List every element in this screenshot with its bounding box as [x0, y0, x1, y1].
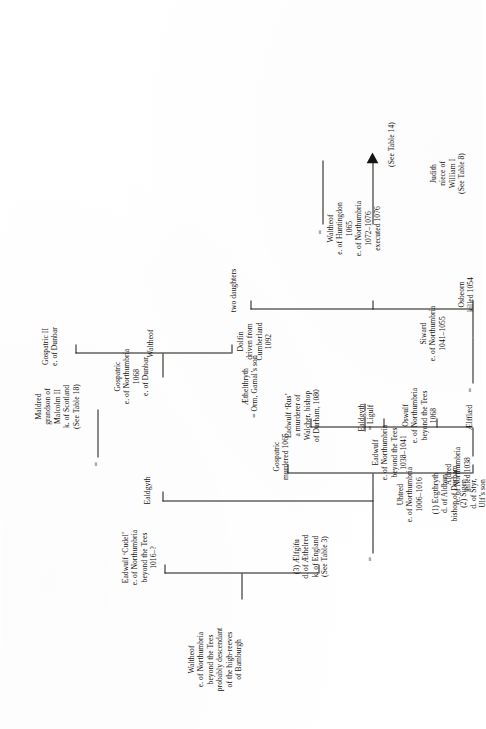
- node-two-daughters: two daughters: [228, 251, 237, 329]
- node-eadwulf-rus: Eadwulf ‘Rus’ a murderer of Walcher, bis…: [283, 353, 321, 477]
- node-waltheof-i-line2: beyond the Tees: [205, 599, 214, 719]
- node-gospatric-line1: e. of Northumbria: [121, 316, 130, 436]
- line-marriage-judith-waltheof: [322, 160, 323, 224]
- marriage-symbol-siward: =: [466, 387, 474, 392]
- node-dolfin-line3: 1092: [263, 291, 272, 391]
- marriage-symbol-maldred: =: [92, 461, 100, 466]
- node-aethelthryth-spouse: = Orm, Gamal’s son: [249, 317, 258, 455]
- node-waltheof-i-line1: e. of Northumbria: [195, 599, 204, 719]
- node-judith-line1: niece of: [437, 125, 446, 221]
- node-aelfgifu-line2: k. of England: [310, 501, 319, 611]
- line-waltheof-i-descent: [241, 573, 242, 599]
- node-gospatric: Gospatric e. of Northumbria 1068 e. of D…: [112, 316, 150, 436]
- node-aethelthryth: Æthelthryth = Orm, Gamal’s son: [240, 317, 259, 455]
- node-siward-name: Siward: [418, 271, 427, 395]
- node-waltheof-i-line4: of the high-reeves: [224, 599, 233, 719]
- node-gospatric-ii: Gospatric II e. of Dunbar: [40, 296, 59, 396]
- node-ealdgyth-ligulf-spouse: = Ligulf: [365, 386, 374, 448]
- node-eadwulf-rus-line2: Walcher, bishop: [302, 353, 311, 477]
- node-waltheof-i-name: Waltheof: [186, 599, 195, 719]
- node-eadwulf-cudel-name: Eadwulf ‘Cudel’: [120, 497, 129, 617]
- node-judith-line3: (See Table 8): [456, 125, 465, 221]
- node-aldred-name: Aldred: [443, 412, 452, 536]
- line-to-eadwulf-cudel: [164, 564, 165, 573]
- node-waltheof-huntingdon-line2: 1065: [344, 168, 353, 288]
- node-aethelthryth-name: Æthelthryth: [240, 317, 249, 455]
- node-waltheof-dunbar: Waltheof: [145, 315, 154, 371]
- line-to-two-daughters: [250, 300, 251, 309]
- node-osbeorn-line1: killed 1054: [465, 255, 474, 333]
- node-two-daughters-label: two daughters: [228, 251, 237, 329]
- node-judith-name: Judith: [428, 125, 437, 221]
- node-ealdgyth-maldred-name: Ealdgyth: [142, 462, 151, 518]
- line-aldred-children-bar: [310, 426, 472, 427]
- node-gospatric-name: Gospatric: [112, 316, 121, 436]
- node-eadwulf-cudel: Eadwulf ‘Cudel’ e. of Northumbria beyond…: [120, 497, 158, 617]
- node-maldred-line3: k. of Scotland: [61, 351, 70, 461]
- line-see-table-14-stem: [372, 160, 373, 224]
- node-osbeorn: Osbeorn killed 1054: [456, 255, 475, 333]
- node-eadwulf-rus-line1: a murderer of: [292, 353, 301, 477]
- node-aelfgifu-line3: (See Table 3): [319, 501, 328, 611]
- node-oswulf-line1: e. of Northumbria: [409, 353, 418, 477]
- line-to-aelfflaed: [472, 464, 473, 473]
- node-eadwulf-line2: beyond the Tees: [389, 390, 398, 514]
- node-oswulf-name: Oswulf: [400, 353, 409, 477]
- node-waltheof-i: Waltheof e. of Northumbria beyond the Te…: [186, 599, 242, 719]
- node-siward-line1: e. of Northumbria: [427, 271, 436, 395]
- line-marriage-ealdgyth-maldred: [97, 409, 98, 457]
- node-gospatric-murdered-name: Gospatric: [271, 401, 280, 511]
- line-uhtred-children-bar: [162, 500, 373, 501]
- node-aelfgifu-line1: d. of Æthelred: [300, 501, 309, 611]
- line-to-dolfin: [231, 344, 232, 353]
- node-eadwulf-rus-line3: of Durham, 1080: [311, 353, 320, 477]
- node-waltheof-huntingdon-name: Waltheof: [325, 168, 334, 288]
- node-waltheof-huntingdon-line1: e. of Huntingdon: [334, 168, 343, 288]
- line-to-ealdgyth-ligulf: [383, 418, 384, 427]
- arrow-head-see-table-14: [366, 149, 378, 163]
- node-aelfflaed: Ælfflæd: [464, 389, 473, 445]
- line-siward-children-bar: [250, 308, 472, 309]
- line-to-ealdgyth: [162, 491, 163, 501]
- marriage-symbol-uhtred: =: [366, 556, 374, 561]
- marriage-symbol-waltheof-huntingdon: =: [316, 229, 324, 234]
- node-see-table-14: (See Table 14): [386, 101, 395, 187]
- node-waltheof-i-line3: probably descendant: [214, 599, 223, 719]
- node-gospatric-line2: 1068: [131, 316, 140, 436]
- line-to-waltheof-huntingdon: [372, 300, 373, 309]
- node-see-table-14-label: (See Table 14): [386, 101, 395, 187]
- node-ealdgyth-ligulf-name: Ealdgyth: [356, 386, 365, 448]
- line-marriage-siward-aelfflaed: [472, 337, 473, 383]
- line-gospatric-descent: [162, 353, 163, 377]
- node-osbeorn-name: Osbeorn: [456, 255, 465, 333]
- node-aelfflaed-name: Ælfflæd: [464, 389, 473, 445]
- node-judith: Judith niece of William I (See Table 8): [428, 125, 466, 221]
- node-waltheof-huntingdon-line3: e. of Northumbria: [353, 168, 362, 288]
- node-ealdgyth-ligulf: Ealdgyth = Ligulf: [356, 386, 375, 448]
- node-siward-dates: 1041–1055: [437, 271, 446, 395]
- node-gospatric-ii-name: Gospatric II: [40, 296, 49, 396]
- node-sigen-line3: Ulf’s son: [477, 429, 486, 557]
- node-judith-line2: William I: [447, 125, 456, 221]
- node-eadwulf-cudel-line1: e. of Northumbria: [129, 497, 138, 617]
- node-waltheof-huntingdon-line4: 1072–1076: [363, 168, 372, 288]
- node-ealdgyth-maldred: Ealdgyth: [142, 462, 151, 518]
- node-aldred-line1: e. of Northumbria: [452, 412, 461, 536]
- node-eadwulf-rus-name: Eadwulf ‘Rus’: [283, 353, 292, 477]
- node-siward: Siward e. of Northumbria 1041–1055: [418, 271, 446, 395]
- node-aelfgifu-name: (3) Ælfgifu: [291, 501, 300, 611]
- node-aelfgifu: (3) Ælfgifu d. of Æthelred k. of England…: [291, 501, 329, 611]
- line-to-gospatric-ii: [75, 344, 76, 353]
- node-waltheof-dunbar-name: Waltheof: [145, 315, 154, 371]
- node-eadwulf-line1: e. of Northumbria: [379, 390, 388, 514]
- node-maldred-line4: (See Table 18): [71, 351, 80, 461]
- node-waltheof-i-line5: of Bamburgh: [233, 599, 242, 719]
- node-gospatric-ii-line1: e. of Dunbar: [49, 296, 58, 396]
